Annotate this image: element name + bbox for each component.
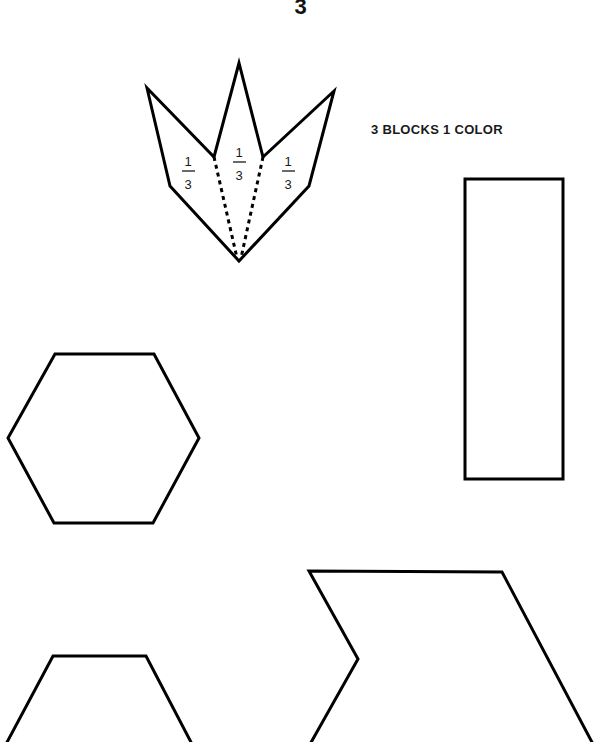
shapes-canvas: 1 3 1 3 1 3 [0,0,601,742]
svg-text:3: 3 [235,168,242,183]
hexagon-shape [8,354,199,523]
trapezoid-shape [5,656,193,742]
svg-text:3: 3 [184,177,191,192]
svg-text:3: 3 [284,177,291,192]
svg-text:1: 1 [284,154,291,169]
fraction-right: 1 3 [282,154,295,192]
fraction-middle: 1 3 [233,145,246,183]
svg-text:1: 1 [184,154,191,169]
chevron-shape [309,571,594,742]
rectangle-shape [465,179,563,479]
svg-text:1: 1 [235,145,242,160]
fraction-left: 1 3 [182,154,195,192]
